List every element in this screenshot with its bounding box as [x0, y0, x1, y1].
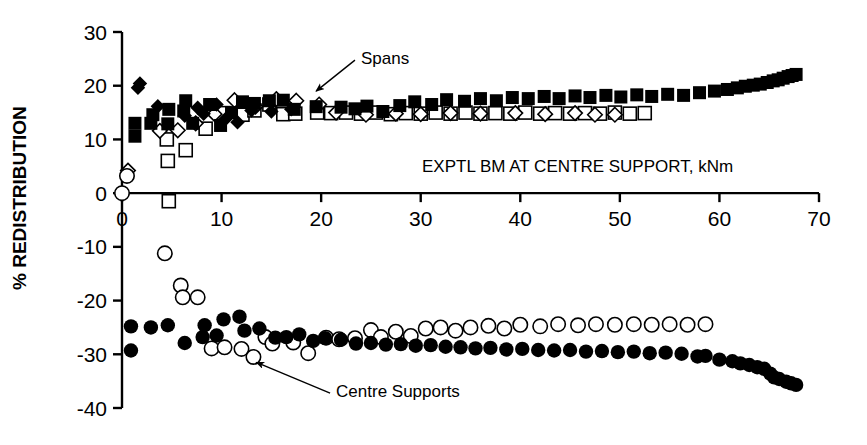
- marker-filled-square: [128, 117, 141, 130]
- x-axis-tick-label: 30: [409, 207, 432, 230]
- marker-filled-circle: [515, 342, 529, 356]
- marker-open-square: [489, 107, 502, 120]
- marker-filled-square: [614, 90, 627, 103]
- y-axis-title: % REDISTRIBUTION: [9, 106, 30, 290]
- marker-filled-square: [522, 92, 535, 105]
- x-axis-tick-label: 70: [807, 207, 830, 230]
- marker-open-circle: [698, 317, 712, 331]
- y-axis-tick-label: -40: [77, 397, 107, 420]
- marker-filled-square: [645, 90, 658, 103]
- marker-filled-circle: [595, 344, 609, 358]
- marker-filled-circle: [252, 321, 266, 335]
- marker-filled-square: [425, 98, 438, 111]
- marker-filled-circle: [423, 338, 437, 352]
- marker-open-square: [162, 195, 175, 208]
- annotation-arrow-centre-supports: [256, 362, 330, 393]
- marker-filled-circle: [237, 323, 251, 337]
- marker-filled-circle: [483, 341, 497, 355]
- marker-open-circle: [662, 317, 676, 331]
- marker-filled-circle: [712, 352, 726, 366]
- marker-filled-square: [360, 100, 373, 113]
- marker-filled-square: [630, 88, 643, 101]
- marker-filled-square: [179, 94, 192, 107]
- marker-filled-circle: [627, 344, 641, 358]
- marker-filled-square: [677, 89, 690, 102]
- marker-filled-square: [162, 103, 175, 116]
- marker-filled-circle: [232, 309, 246, 323]
- marker-filled-circle: [197, 318, 211, 332]
- marker-filled-circle: [658, 345, 672, 359]
- marker-filled-circle: [579, 344, 593, 358]
- x-axis-tick-label: 0: [116, 207, 128, 230]
- marker-filled-circle: [161, 318, 175, 332]
- x-axis-tick-label: 40: [509, 207, 532, 230]
- marker-open-circle: [608, 318, 622, 332]
- series-spans-filled-square: [128, 68, 802, 143]
- marker-filled-square: [474, 92, 487, 105]
- marker-open-circle: [301, 346, 315, 360]
- marker-filled-circle: [643, 346, 657, 360]
- marker-open-circle: [627, 317, 641, 331]
- marker-open-circle: [551, 317, 565, 331]
- marker-filled-circle: [409, 338, 423, 352]
- marker-open-circle: [497, 321, 511, 335]
- marker-filled-circle: [349, 336, 363, 350]
- marker-filled-circle: [144, 320, 158, 334]
- marker-filled-square: [310, 100, 323, 113]
- y-axis-tick-label: 0: [95, 182, 107, 205]
- marker-filled-circle: [178, 336, 192, 350]
- marker-open-circle: [680, 318, 694, 332]
- marker-filled-circle: [438, 340, 452, 354]
- marker-filled-square: [393, 99, 406, 112]
- marker-open-circle: [190, 290, 204, 304]
- marker-open-circle: [481, 319, 495, 333]
- x-axis-tick-label: 60: [708, 207, 731, 230]
- x-axis: 010203040506070: [116, 193, 831, 230]
- annotation-label-spans: Spans: [361, 49, 409, 68]
- marker-open-circle: [589, 317, 603, 331]
- marker-filled-square: [440, 93, 453, 106]
- marker-open-circle: [120, 169, 134, 183]
- marker-filled-square: [458, 95, 471, 108]
- marker-filled-square: [790, 68, 803, 81]
- marker-open-square: [459, 106, 472, 119]
- marker-filled-circle: [547, 343, 561, 357]
- marker-filled-circle: [499, 342, 513, 356]
- marker-filled-circle: [279, 330, 293, 344]
- marker-filled-square: [128, 130, 141, 143]
- marker-open-circle: [645, 318, 659, 332]
- annotation-arrow-spans: [316, 60, 355, 91]
- marker-open-circle: [158, 246, 172, 260]
- annotation-label-centre-supports: Centre Supports: [336, 382, 460, 401]
- marker-open-square: [623, 107, 636, 120]
- marker-open-square: [638, 107, 651, 120]
- marker-filled-circle: [306, 334, 320, 348]
- marker-filled-circle: [334, 333, 348, 347]
- marker-filled-square: [348, 102, 361, 115]
- marker-open-circle: [533, 319, 547, 333]
- marker-open-circle: [448, 323, 462, 337]
- marker-open-circle: [246, 350, 260, 364]
- marker-filled-square: [335, 101, 348, 114]
- marker-open-circle: [217, 340, 231, 354]
- marker-filled-square: [661, 88, 674, 101]
- marker-filled-circle: [292, 327, 306, 341]
- marker-open-circle: [389, 325, 403, 339]
- chart-root: % REDISTRIBUTION 3020100-10-20-30-40 010…: [0, 0, 867, 445]
- marker-filled-circle: [364, 336, 378, 350]
- x-axis-title: EXPTL BM AT CENTRE SUPPORT, kNm: [422, 157, 733, 176]
- y-axis-tick-label: -20: [77, 289, 107, 312]
- marker-filled-square: [376, 105, 389, 118]
- marker-open-circle: [513, 318, 527, 332]
- marker-filled-square: [263, 94, 276, 107]
- y-axis-tick-label: 30: [84, 21, 107, 44]
- marker-filled-circle: [318, 331, 332, 345]
- marker-open-square: [161, 154, 174, 167]
- marker-filled-square: [490, 94, 503, 107]
- marker-open-circle: [433, 320, 447, 334]
- marker-filled-circle: [209, 328, 223, 342]
- marker-filled-circle: [394, 337, 408, 351]
- marker-filled-square: [236, 95, 249, 108]
- marker-filled-square: [161, 117, 174, 130]
- marker-filled-circle: [674, 347, 688, 361]
